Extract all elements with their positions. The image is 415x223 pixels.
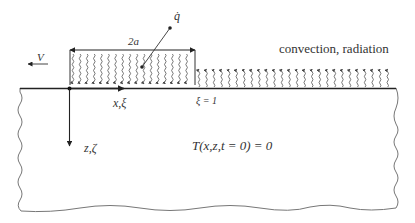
heat-flux-wavy-arrow bbox=[165, 54, 167, 84]
convection-wavy-arrow bbox=[296, 69, 298, 87]
heat-flux-wavy-arrow bbox=[122, 54, 124, 84]
convection-radiation-arrows bbox=[198, 69, 388, 87]
convection-wavy-arrow bbox=[221, 69, 223, 87]
convection-wavy-arrow bbox=[228, 69, 230, 87]
convection-wavy-arrow bbox=[304, 69, 306, 87]
convection-wavy-arrow bbox=[206, 69, 208, 87]
heat-flux-wavy-arrow bbox=[94, 54, 96, 84]
heat-flux-wavy-arrow bbox=[129, 54, 131, 84]
initial-condition-label: T(x,z,t = 0) = 0 bbox=[192, 138, 273, 153]
convection-wavy-arrow bbox=[289, 69, 291, 87]
convection-wavy-arrow bbox=[281, 69, 283, 87]
heat-flux-wavy-arrow bbox=[143, 54, 145, 84]
convection-wavy-arrow bbox=[251, 69, 253, 87]
convection-wavy-arrow bbox=[213, 69, 215, 87]
heat-flux-wavy-arrow bbox=[136, 54, 138, 84]
heat-flux-arrows bbox=[72, 54, 187, 84]
convection-wavy-arrow bbox=[327, 69, 329, 87]
convection-wavy-arrow bbox=[372, 69, 374, 87]
convection-wavy-arrow bbox=[244, 69, 246, 87]
heat-flux-wavy-arrow bbox=[157, 54, 159, 84]
convection-wavy-arrow bbox=[319, 69, 321, 87]
heat-flux-wavy-arrow bbox=[172, 54, 174, 84]
heat-flux-wavy-arrow bbox=[179, 54, 181, 84]
convection-wavy-arrow bbox=[342, 69, 344, 87]
width-label: 2a bbox=[128, 35, 140, 47]
convection-wavy-arrow bbox=[198, 69, 200, 87]
heat-flux-wavy-arrow bbox=[150, 54, 152, 84]
convection-wavy-arrow bbox=[387, 69, 389, 87]
heat-flux-leader-dot-top bbox=[168, 26, 172, 30]
z-axis-label: z,ζ bbox=[83, 141, 98, 155]
heat-flux-wavy-arrow bbox=[86, 54, 88, 84]
convection-wavy-arrow bbox=[357, 69, 359, 87]
convection-wavy-arrow bbox=[274, 69, 276, 87]
heat-flux-wavy-arrow bbox=[101, 54, 103, 84]
convection-wavy-arrow bbox=[379, 69, 381, 87]
heat-flux-label: q̇ bbox=[174, 9, 180, 23]
convection-wavy-arrow bbox=[236, 69, 238, 87]
heat-flux-wavy-arrow bbox=[108, 54, 110, 84]
convection-wavy-arrow bbox=[312, 69, 314, 87]
heat-flux-wavy-arrow bbox=[186, 54, 188, 84]
convection-wavy-arrow bbox=[334, 69, 336, 87]
heat-flux-wavy-arrow bbox=[79, 54, 81, 84]
heat-flux-wavy-arrow bbox=[72, 54, 74, 84]
velocity-label: V bbox=[37, 51, 45, 63]
heat-source-diagram: V q̇ 2a x,ξ z,ζ ξ = 1 convection, radiat… bbox=[0, 0, 415, 223]
heat-flux-leader-dot-bottom bbox=[140, 65, 144, 69]
convection-wavy-arrow bbox=[349, 69, 351, 87]
heat-flux-wavy-arrow bbox=[115, 54, 117, 84]
boundary-label: ξ = 1 bbox=[196, 95, 217, 107]
convection-wavy-arrow bbox=[364, 69, 366, 87]
x-axis-label: x,ξ bbox=[112, 96, 127, 110]
convection-wavy-arrow bbox=[259, 69, 261, 87]
surface-condition-label: convection, radiation bbox=[279, 41, 389, 56]
convection-wavy-arrow bbox=[266, 69, 268, 87]
